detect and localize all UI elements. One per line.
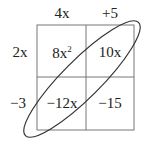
grid-lines [0,0,144,142]
row-header-1: 2x [8,45,32,60]
cell-r1c2: 10x [88,45,132,60]
diagonal-ellipse [12,9,144,142]
row-header-2: −3 [6,96,30,111]
column-header-1: 4x [50,6,74,21]
column-header-2: +5 [98,6,122,21]
cell-r2c2: −15 [88,96,132,111]
cell-r1c1: 8x2 [40,45,84,61]
cell-r2c1: −12x [40,96,84,111]
